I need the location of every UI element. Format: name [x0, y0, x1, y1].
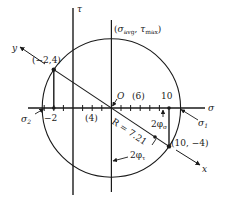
point-minus-two [52, 106, 56, 110]
radius-label: R = 7.21 [110, 116, 149, 147]
radius-midpoint [153, 135, 157, 139]
mohr-circle-diagram: τ σ y x (−2,4) (10, −4) (σavg, τmax) O (… [0, 0, 226, 200]
angle-sigma-bracket [152, 139, 156, 145]
angle-tau-pointer [113, 157, 128, 161]
sigma2-label: σ2 [21, 114, 31, 125]
span-right-label: (6) [132, 91, 145, 101]
point-a [52, 67, 56, 71]
origin-label: O [117, 91, 125, 101]
top-point-label: (σavg, τmax) [114, 24, 161, 36]
sigma1-pointer [181, 110, 198, 121]
angle-sigma-label: 2φσ [151, 119, 167, 130]
tau-axis-label: τ [77, 4, 83, 14]
span-left-label: (4) [85, 113, 98, 123]
point-a-label: (−2,4) [32, 55, 61, 65]
tick-minus-two-label: −2 [44, 113, 57, 123]
angle-tau-label: 2φτ [130, 150, 146, 161]
point-ten [167, 106, 171, 110]
tick-ten-label: 10 [161, 91, 173, 101]
sigma-axis-label: σ [208, 103, 215, 113]
sigma1-label: σ1 [198, 118, 208, 129]
point-b-label: (10, −4) [171, 138, 208, 148]
x-axis-label: x [202, 164, 207, 174]
x-axis-arrow [176, 150, 200, 165]
y-axis-label: y [11, 43, 18, 53]
